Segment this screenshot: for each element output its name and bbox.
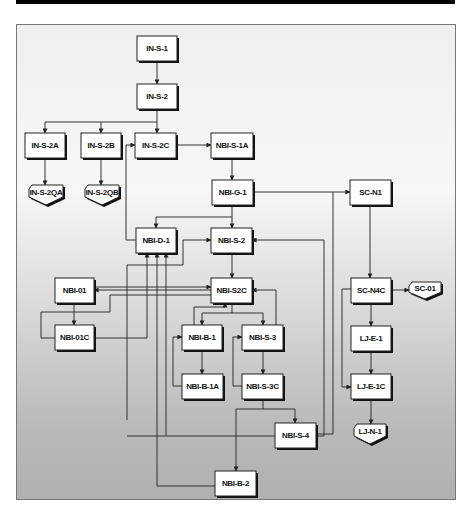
node-label: IN-S-2A [32,141,59,150]
node-label: NBI-01 [63,286,87,295]
node-label: NBI-S-4 [282,431,310,440]
node-lj-e-1c: LJ-E-1C [351,374,393,401]
node-nbi-s-2: NBI-S-2 [211,228,254,255]
node-sc-01: SC-01 [409,282,443,301]
node-sc-n1: SC-N1 [350,180,393,207]
connector [173,337,182,386]
node-label: NBI-D-1 [142,236,170,245]
flowchart-canvas: IN-S-1IN-S-2IN-S-2AIN-S-2BIN-S-2CNBI-S-1… [0,0,469,525]
node-sc-n4c: SC-N4C [351,278,393,305]
node-nbi-d-1: NBI-D-1 [136,228,178,255]
node-nbi-b-1a: NBI-B-1A [182,374,225,401]
node-lj-e-1: LJ-E-1 [351,326,393,353]
node-label: IN-S-2QA [30,188,63,197]
node-label: NBI-B-1 [188,333,216,342]
node-label: NBI-S-3 [249,333,277,342]
node-label: SC-N1 [359,188,382,197]
node-label: NBI-S2C [217,286,247,295]
node-nbi-s-3c: NBI-S-3C [242,374,285,401]
connector [156,217,232,228]
node-label: NBI-S-1A [216,141,249,150]
connector [263,409,295,423]
connector-layer [41,61,409,486]
connector [232,313,263,325]
node-label: NBI-S-3C [246,382,279,391]
connector [194,303,225,325]
connector [252,290,276,325]
node-nbi-s-3: NBI-S-3 [242,325,285,352]
node-nbi-b-2: NBI-B-2 [215,471,258,498]
node-in-s-2c: IN-S-2C [135,133,178,160]
node-layer: IN-S-1IN-S-2IN-S-2AIN-S-2BIN-S-2CNBI-S-1… [25,36,443,498]
connector [342,289,351,387]
node-in-s-2b: IN-S-2B [81,133,123,160]
node-nbi-01: NBI-01 [55,278,96,305]
node-label: LJ-E-1 [360,334,384,343]
node-label: SC-N4C [357,286,386,295]
node-label: IN-S-2C [142,141,169,150]
node-in-s-2qa: IN-S-2QA [29,185,65,207]
node-label: LJ-N-1 [358,427,382,436]
node-label: NBI-01C [60,333,90,342]
node-in-s-2a: IN-S-2A [25,133,67,160]
node-nbi-b-1: NBI-B-1 [182,325,224,352]
node-label: NBI-B-1A [186,382,219,391]
node-nbi-s2c: NBI-S2C [211,278,254,305]
node-label: NBI-B-2 [222,479,250,488]
node-nbi-s-4: NBI-S-4 [275,423,318,450]
node-label: IN-S-2 [146,92,168,101]
node-label: NBI-G-1 [219,188,248,197]
node-in-s-2qb: IN-S-2QB [85,185,121,207]
node-nbi-01c: NBI-01C [55,325,96,352]
node-nbi-g-1: NBI-G-1 [212,180,255,207]
node-nbi-s-1a: NBI-S-1A [211,133,255,160]
node-in-s-2: IN-S-2 [137,84,179,111]
node-label: IN-S-2B [88,141,115,150]
connector [126,145,136,240]
node-label: NBI-S-2 [218,236,246,245]
node-in-s-1: IN-S-1 [137,36,179,63]
node-label: SC-01 [414,284,436,293]
node-label: IN-S-2QB [86,188,119,197]
connector [233,337,242,386]
node-label: IN-S-1 [146,44,168,53]
node-lj-n-1: LJ-N-1 [354,424,388,446]
node-label: LJ-E-1C [357,382,386,391]
